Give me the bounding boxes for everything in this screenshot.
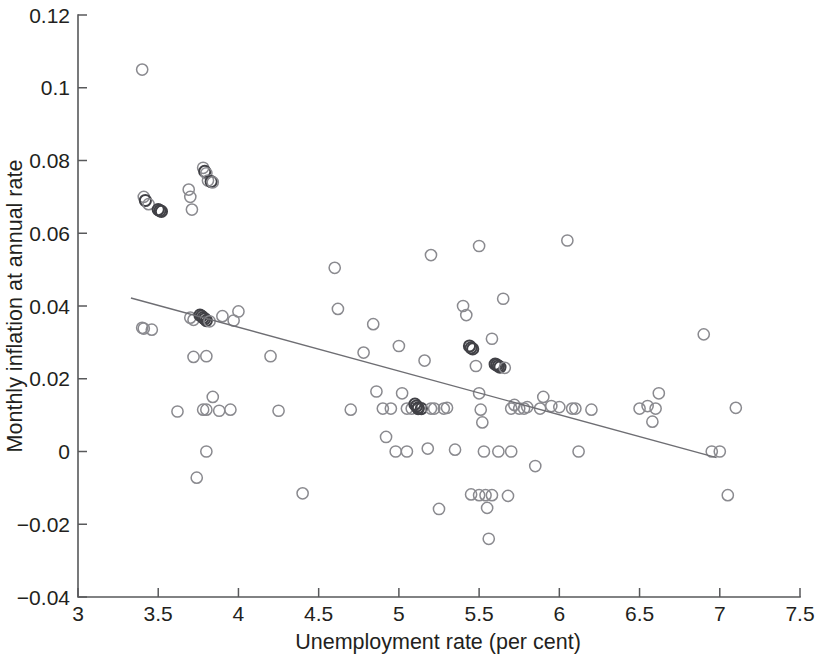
x-axis-tick-label: 7 bbox=[714, 602, 726, 625]
scatter-point bbox=[137, 64, 148, 75]
x-axis-tick-label: 6 bbox=[553, 602, 565, 625]
y-axis-tick-label: 0.06 bbox=[29, 222, 70, 245]
scatter-point bbox=[486, 490, 497, 501]
scatter-point bbox=[449, 444, 460, 455]
scatter-point bbox=[371, 386, 382, 397]
scatter-point bbox=[482, 502, 493, 513]
scatter-point bbox=[422, 443, 433, 454]
plot-canvas: −0.04−0.0200.020.040.060.080.10.1233.544… bbox=[0, 0, 816, 656]
scatter-point bbox=[486, 333, 497, 344]
trend-line-group bbox=[131, 298, 717, 458]
x-axis-tick-label: 6.5 bbox=[625, 602, 654, 625]
scatter-point bbox=[493, 446, 504, 457]
scatter-point bbox=[554, 402, 565, 413]
scatter-point bbox=[506, 446, 517, 457]
scatter-point bbox=[385, 403, 396, 414]
x-axis-tick-label: 5.5 bbox=[465, 602, 494, 625]
scatter-point bbox=[297, 488, 308, 499]
scatter-point bbox=[478, 446, 489, 457]
scatter-point bbox=[401, 446, 412, 457]
scatter-point bbox=[425, 249, 436, 260]
y-axis-tick-label: 0.02 bbox=[29, 367, 70, 390]
axes-group bbox=[78, 15, 800, 597]
y-axis-tick-label: 0.04 bbox=[29, 295, 70, 318]
y-axis-tick-label: −0.02 bbox=[17, 513, 70, 536]
scatter-point bbox=[233, 306, 244, 317]
scatter-point bbox=[265, 351, 276, 362]
scatter-point bbox=[698, 329, 709, 340]
x-axis-tick-label: 3 bbox=[72, 602, 84, 625]
scatter-point bbox=[368, 319, 379, 330]
scatter-point bbox=[358, 347, 369, 358]
scatter-point bbox=[480, 490, 491, 501]
scatter-point bbox=[477, 417, 488, 428]
scatter-point bbox=[393, 340, 404, 351]
x-axis-title: Unemployment rate (per cent) bbox=[295, 630, 581, 654]
x-axis-tick-label: 7.5 bbox=[785, 602, 814, 625]
scatter-point bbox=[502, 490, 513, 501]
scatter-point bbox=[642, 400, 653, 411]
scatter-point bbox=[172, 406, 183, 417]
scatter-point bbox=[653, 388, 664, 399]
scatter-point bbox=[419, 355, 430, 366]
x-axis-tick-label: 3.5 bbox=[144, 602, 173, 625]
scatter-point bbox=[390, 446, 401, 457]
y-axis-tick-label: 0 bbox=[58, 440, 70, 463]
scatter-point bbox=[647, 416, 658, 427]
scatter-point bbox=[474, 240, 485, 251]
y-axis-tick-label: 0.12 bbox=[29, 4, 70, 27]
scatter-point bbox=[573, 446, 584, 457]
scatter-point bbox=[714, 446, 725, 457]
x-axis-tick-label: 4.5 bbox=[304, 602, 333, 625]
scatter-point bbox=[498, 293, 509, 304]
x-axis-tick-label: 4 bbox=[233, 602, 245, 625]
scatter-point bbox=[586, 404, 597, 415]
scatter-point bbox=[722, 490, 733, 501]
scatter-point bbox=[188, 351, 199, 362]
regression-trend-line bbox=[131, 298, 717, 458]
scatter-point bbox=[345, 404, 356, 415]
scatter-point bbox=[530, 460, 541, 471]
scatter-point bbox=[225, 404, 236, 415]
scatter-point bbox=[201, 351, 212, 362]
scatter-point bbox=[217, 311, 228, 322]
scatter-point bbox=[474, 490, 485, 501]
scatter-point bbox=[214, 405, 225, 416]
scatter-point bbox=[186, 204, 197, 215]
scatter-point bbox=[207, 391, 218, 402]
scatter-point bbox=[329, 262, 340, 273]
scatter-point bbox=[191, 472, 202, 483]
data-points-group bbox=[137, 64, 742, 544]
y-axis-tick-label: 0.08 bbox=[29, 149, 70, 172]
scatter-point bbox=[397, 388, 408, 399]
scatter-point bbox=[730, 402, 741, 413]
y-axis-title: Monthly inflation at annual rate bbox=[3, 160, 27, 453]
axis-labels-group: −0.04−0.0200.020.040.060.080.10.1233.544… bbox=[17, 4, 815, 626]
scatter-point bbox=[185, 191, 196, 202]
scatter-point bbox=[380, 431, 391, 442]
scatter-point bbox=[183, 184, 194, 195]
scatter-point bbox=[483, 533, 494, 544]
scatter-point bbox=[332, 303, 343, 314]
y-axis-tick-label: 0.1 bbox=[41, 76, 70, 99]
scatter-point bbox=[433, 503, 444, 514]
scatter-point bbox=[650, 403, 661, 414]
scatter-point bbox=[470, 360, 481, 371]
scatter-plot-figure: −0.04−0.0200.020.040.060.080.10.1233.544… bbox=[0, 0, 816, 656]
scatter-point bbox=[475, 404, 486, 415]
x-axis-tick-label: 5 bbox=[393, 602, 405, 625]
scatter-point bbox=[273, 405, 284, 416]
y-axis-tick-label: −0.04 bbox=[17, 586, 70, 609]
scatter-point bbox=[201, 446, 212, 457]
scatter-point bbox=[538, 391, 549, 402]
axis-spines bbox=[78, 15, 800, 597]
scatter-point bbox=[562, 235, 573, 246]
scatter-point bbox=[634, 403, 645, 414]
